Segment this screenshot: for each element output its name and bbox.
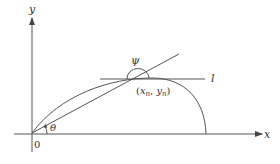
x-axis-label: x <box>264 128 271 141</box>
origin-label: 0 <box>34 139 40 150</box>
theta-label: θ <box>50 122 56 133</box>
y-axis-label: y <box>28 3 36 16</box>
psi-label: ψ <box>131 54 140 67</box>
point-label: (xn, yn) <box>136 85 171 98</box>
trajectory-diagram: y x 0 θ ψ l (xn, yn) <box>0 0 280 164</box>
line-l-label: l <box>211 72 215 85</box>
psi-arc <box>127 68 149 79</box>
theta-arrow-icon <box>43 124 47 128</box>
